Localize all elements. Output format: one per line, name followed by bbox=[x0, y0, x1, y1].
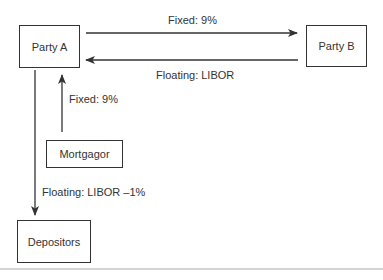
node-party-b: Party B bbox=[306, 25, 367, 67]
edge-label-fixed-mortgagor: Fixed: 9% bbox=[69, 93, 118, 105]
edge-label-floating-b-to-a: Floating: LIBOR bbox=[156, 69, 234, 81]
node-party-b-label: Party B bbox=[318, 40, 354, 52]
divider bbox=[0, 268, 383, 270]
node-mortgagor-label: Mortgagor bbox=[59, 148, 109, 160]
node-mortgagor: Mortgagor bbox=[46, 140, 123, 168]
edge-label-fixed-a-to-b: Fixed: 9% bbox=[168, 14, 217, 26]
node-depositors: Depositors bbox=[17, 220, 91, 263]
node-depositors-label: Depositors bbox=[28, 236, 81, 248]
edge-label-floating-depositors: Floating: LIBOR –1% bbox=[42, 186, 145, 198]
node-party-a: Party A bbox=[19, 25, 80, 68]
node-party-a-label: Party A bbox=[32, 41, 67, 53]
